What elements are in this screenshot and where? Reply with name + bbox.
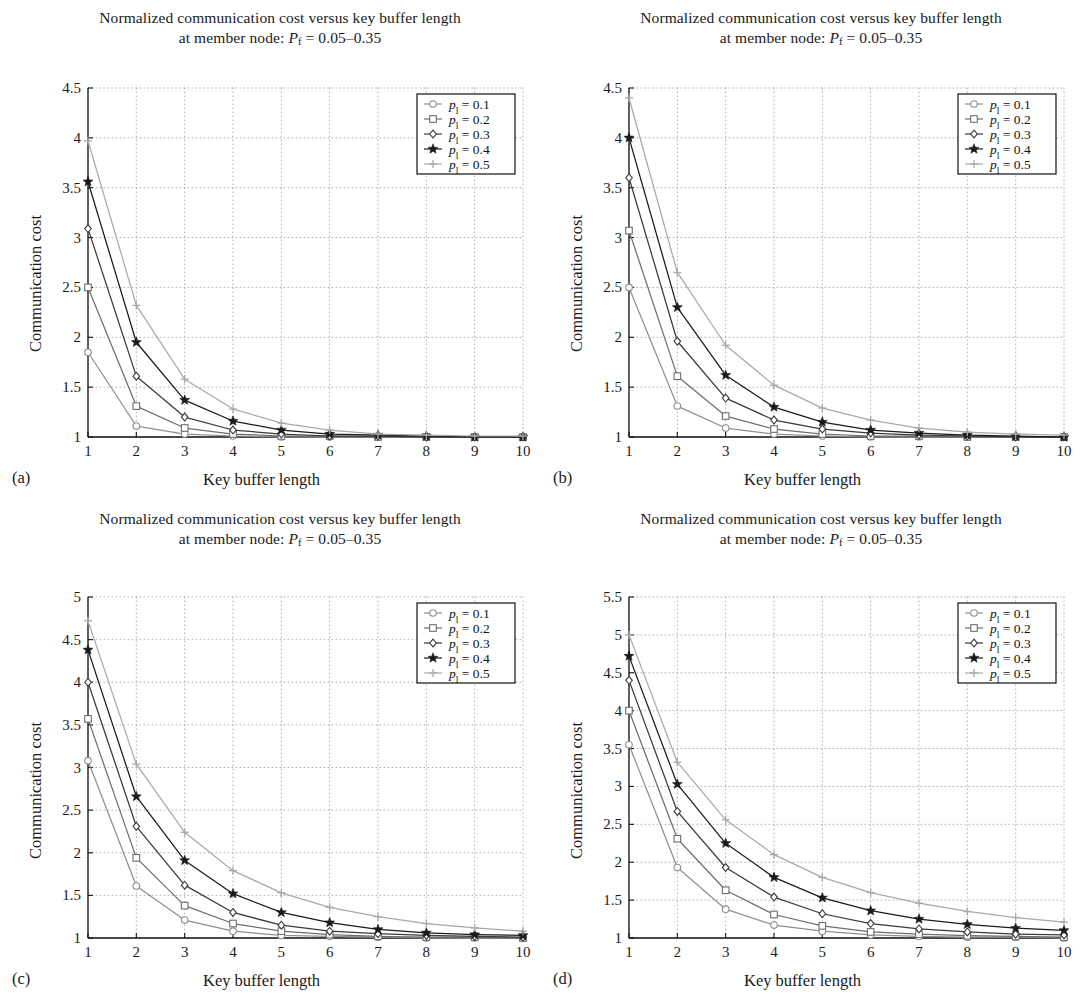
- y-tick-label: 2.5: [62, 802, 81, 818]
- x-tick-label: 9: [471, 944, 479, 960]
- subplot-c-plot-area: 11.522.533.544.5512345678910pl = 0.1pl =…: [0, 501, 541, 1002]
- x-tick-label: 1: [84, 443, 92, 459]
- x-tick-label: 4: [770, 944, 778, 960]
- data-point-plus: [422, 919, 430, 927]
- x-tick-label: 1: [84, 944, 92, 960]
- data-point-circle: [133, 883, 140, 890]
- data-point-star: [962, 919, 972, 928]
- y-tick-label: 1.5: [62, 887, 81, 903]
- y-tick-label: 1: [74, 930, 82, 946]
- subplot-c-ylabel: Communication cost: [26, 722, 46, 859]
- data-point-star: [672, 779, 682, 788]
- data-point-circle: [133, 423, 140, 430]
- x-tick-label: 10: [1057, 944, 1072, 960]
- data-point-diamond: [626, 676, 633, 684]
- x-tick-label: 5: [819, 443, 827, 459]
- data-point-square: [133, 403, 140, 410]
- x-tick-label: 2: [133, 443, 141, 459]
- y-tick-label: 2: [74, 329, 82, 345]
- data-point-plus: [1012, 913, 1020, 921]
- y-tick-label: 5: [615, 627, 623, 643]
- y-tick-label: 3.5: [603, 741, 622, 757]
- data-point-circle: [85, 757, 92, 764]
- data-point-square: [674, 835, 681, 842]
- y-tick-label: 1: [615, 429, 623, 445]
- data-point-plus: [915, 424, 923, 432]
- y-tick-label: 4: [74, 674, 82, 690]
- data-point-plus: [867, 416, 875, 424]
- y-tick-label: 4.5: [62, 80, 81, 96]
- data-point-square: [133, 855, 140, 862]
- subplot-a: Normalized communication cost versus key…: [0, 0, 541, 501]
- y-tick-label: 3: [615, 230, 623, 246]
- data-point-diamond: [85, 678, 92, 686]
- data-point-square: [626, 227, 633, 234]
- data-point-circle: [626, 284, 633, 291]
- data-point-circle: [85, 349, 92, 356]
- data-point-square: [230, 920, 237, 927]
- data-point-star: [769, 872, 779, 881]
- data-point-square: [722, 887, 729, 894]
- subplot-b-xlabel: Key buffer length: [585, 470, 1020, 490]
- data-point-diamond: [771, 416, 778, 424]
- y-tick-label: 2: [615, 329, 623, 345]
- x-tick-label: 5: [278, 443, 286, 459]
- data-point-square: [674, 373, 681, 380]
- y-tick-label: 5: [74, 589, 82, 605]
- data-point-plus: [326, 903, 334, 911]
- x-tick-label: 7: [374, 443, 382, 459]
- y-tick-label: 1: [615, 930, 623, 946]
- series-line-0.4: [624, 133, 1069, 442]
- subplot-c-chart: 11.522.533.544.5512345678910pl = 0.1pl =…: [0, 501, 541, 1002]
- data-point-plus: [818, 404, 826, 412]
- y-tick-label: 4: [615, 703, 623, 719]
- series-line-0.5: [84, 137, 527, 440]
- legend[interactable]: pl = 0.1pl = 0.2pl = 0.3pl = 0.4pl = 0.5: [958, 94, 1056, 176]
- data-point-square: [430, 116, 437, 123]
- data-point-plus: [770, 851, 778, 859]
- data-point-plus: [471, 924, 479, 932]
- legend[interactable]: pl = 0.1pl = 0.2pl = 0.3pl = 0.4pl = 0.5: [958, 603, 1056, 685]
- subplot-a-ylabel: Communication cost: [26, 215, 46, 352]
- y-tick-label: 1.5: [603, 892, 622, 908]
- legend[interactable]: pl = 0.1pl = 0.2pl = 0.3pl = 0.4pl = 0.5: [417, 603, 515, 685]
- data-point-star: [228, 888, 238, 897]
- data-point-plus: [132, 760, 140, 768]
- data-point-square: [85, 716, 92, 723]
- data-point-circle: [771, 922, 778, 929]
- data-point-square: [867, 929, 874, 936]
- y-tick-label: 3: [74, 230, 82, 246]
- y-tick-label: 2.5: [62, 279, 81, 295]
- y-tick-label: 1.5: [62, 379, 81, 395]
- subplot-b-chart: 11.522.533.544.512345678910pl = 0.1pl = …: [541, 0, 1082, 501]
- data-point-diamond: [626, 174, 633, 182]
- x-tick-label: 10: [516, 443, 531, 459]
- subplot-a-xlabel: Key buffer length: [44, 470, 479, 490]
- y-tick-label: 2: [74, 845, 82, 861]
- series-line-0.3: [626, 174, 1068, 441]
- x-tick-label: 2: [674, 443, 682, 459]
- y-tick-label: 3: [74, 760, 82, 776]
- x-tick-label: 4: [229, 944, 237, 960]
- data-point-diamond: [230, 909, 237, 917]
- legend[interactable]: pl = 0.1pl = 0.2pl = 0.3pl = 0.4pl = 0.5: [417, 94, 515, 176]
- x-tick-label: 3: [722, 944, 730, 960]
- data-point-diamond: [771, 893, 778, 901]
- data-point-circle: [181, 917, 188, 924]
- data-point-square: [430, 625, 437, 632]
- data-point-circle: [722, 906, 729, 913]
- x-tick-label: 3: [181, 443, 189, 459]
- subplot-b-ylabel: Communication cost: [567, 215, 587, 352]
- subplot-a-plot-area: 11.522.533.544.512345678910pl = 0.1pl = …: [0, 0, 541, 501]
- x-tick-label: 3: [181, 944, 189, 960]
- subplot-d-xlabel: Key buffer length: [585, 971, 1020, 991]
- y-tick-label: 4.5: [603, 665, 622, 681]
- x-tick-label: 7: [915, 944, 923, 960]
- data-point-circle: [674, 403, 681, 410]
- data-point-plus: [84, 617, 92, 625]
- data-point-square: [181, 902, 188, 909]
- x-tick-label: 9: [1012, 944, 1020, 960]
- subplot-d: Normalized communication cost versus key…: [541, 501, 1082, 1002]
- series-line-0.4: [624, 651, 1069, 935]
- y-tick-label: 3.5: [62, 180, 81, 196]
